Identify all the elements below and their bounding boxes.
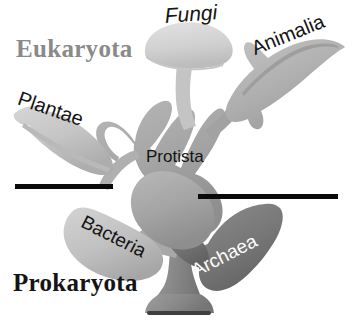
label-eukaryota: Eukaryota [16, 36, 133, 61]
label-fungi: Fungi [164, 1, 218, 26]
label-prokaryota: Prokaryota [13, 270, 138, 295]
left-divider-rule [15, 184, 113, 189]
fungi-shape [145, 22, 233, 70]
base-line-rule [147, 311, 211, 315]
tree-of-life-figure: Eukaryota Prokaryota Fungi Animalia Plan… [0, 0, 352, 330]
right-divider-rule [198, 194, 338, 199]
animalia-shape [226, 39, 345, 129]
label-protista: Protista [146, 148, 204, 165]
